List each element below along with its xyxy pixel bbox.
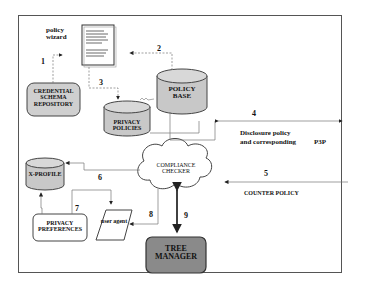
policy-base-label: POLICY BASE	[160, 86, 204, 101]
edge-8-label: 8	[149, 211, 153, 219]
document-icon	[82, 25, 116, 67]
edge-1-label: 1	[41, 58, 45, 66]
edge-6-label: 6	[98, 174, 102, 182]
user-agent-label: user agent	[100, 218, 128, 224]
user-agent-shape	[96, 210, 132, 240]
edge-4-label: 4	[252, 110, 256, 118]
edge-3-label: 3	[99, 79, 103, 87]
compliance-checker-label: COMPLIANCE CHECKER	[150, 162, 202, 175]
privacy-preferences-label: PRIVACY PREFERENCES	[33, 220, 87, 233]
tree-manager-label: TREE MANAGER	[146, 245, 206, 262]
p3p-label: P3P	[314, 139, 334, 146]
x-profile-label: X-PROFILE	[28, 171, 62, 177]
disclosure-policy-label: Disclosure policy	[240, 130, 320, 137]
credential-schema-repository-label: CREDENTIAL SCHEMA REPOSITORY	[27, 88, 80, 107]
edge-2-label: 2	[157, 45, 161, 53]
counter-policy-label: COUNTER POLICY	[244, 190, 314, 196]
policy-wizard-label: policy wizard	[46, 27, 80, 42]
disclosure-policy-label-2: and corresponding	[240, 139, 320, 146]
edge-9-label: 9	[184, 212, 188, 220]
privacy-policies-label: PRIVACY POLICIES	[106, 119, 148, 132]
edge-5-label: 5	[264, 170, 268, 178]
edge-7-label: 7	[75, 205, 79, 213]
